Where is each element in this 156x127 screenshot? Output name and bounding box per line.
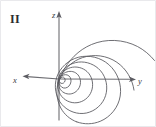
z-axis-label: z — [51, 10, 56, 20]
conical-spiral-diagram: z x y II — [0, 0, 156, 127]
axis-x — [23, 74, 60, 79]
figure-tag-label: II — [10, 12, 20, 26]
frame-border — [1, 1, 156, 127]
y-axis-label: y — [137, 76, 142, 86]
figure-container: z x y II — [0, 0, 156, 127]
x-axis-label: x — [12, 75, 17, 85]
